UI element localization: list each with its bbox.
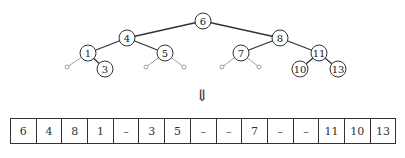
array-cell-0: 6 <box>11 119 36 143</box>
node-label: 11 <box>313 48 326 59</box>
null-leaf-icon <box>65 65 69 69</box>
node-label: 5 <box>162 48 168 59</box>
null-leaf-icon <box>144 65 148 69</box>
node-label: 6 <box>200 16 206 27</box>
array-cell-11: – <box>293 119 319 143</box>
array-cell-3: 1 <box>87 119 113 143</box>
tree-edge <box>203 21 280 38</box>
node-label: 1 <box>85 48 91 59</box>
array-cell-2: 8 <box>61 119 87 143</box>
null-leaf-icon <box>257 65 261 69</box>
node-label: 10 <box>294 64 307 75</box>
array-cell-6: 5 <box>164 119 190 143</box>
tree-diagram: 6481571131013 <box>0 0 405 90</box>
null-leaf-icon <box>182 65 186 69</box>
array-cell-14: 13 <box>370 119 396 143</box>
node-label: 8 <box>277 33 283 44</box>
node-label: 4 <box>124 33 130 44</box>
array-cell-12: 11 <box>318 119 344 143</box>
tree-node-4: 4 <box>119 30 135 46</box>
null-leaf-icon <box>220 65 224 69</box>
tree-node-10: 10 <box>292 61 308 77</box>
tree-node-13: 13 <box>330 61 346 77</box>
node-label: 3 <box>102 64 108 75</box>
tree-node-3: 3 <box>97 61 113 77</box>
array-cell-5: 3 <box>138 119 164 143</box>
array-cell-4: – <box>113 119 139 143</box>
tree-node-11: 11 <box>311 45 327 61</box>
node-label: 7 <box>238 48 244 59</box>
array-cell-7: – <box>190 119 216 143</box>
tree-node-8: 8 <box>272 30 288 46</box>
tree-node-6: 6 <box>195 13 211 29</box>
down-double-arrow-icon: ⇓ <box>194 86 210 106</box>
array-cell-8: – <box>216 119 242 143</box>
array-cell-9: 7 <box>241 119 267 143</box>
tree-node-5: 5 <box>157 45 173 61</box>
array-representation: 6481–35––7––111013 <box>10 118 396 144</box>
tree-edge <box>127 21 203 38</box>
array-cell-13: 10 <box>344 119 370 143</box>
tree-node-1: 1 <box>80 45 96 61</box>
array-cell-10: – <box>267 119 293 143</box>
node-label: 13 <box>332 64 345 75</box>
array-cell-1: 4 <box>36 119 62 143</box>
tree-node-7: 7 <box>233 45 249 61</box>
